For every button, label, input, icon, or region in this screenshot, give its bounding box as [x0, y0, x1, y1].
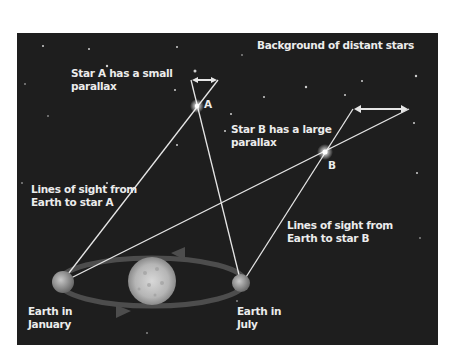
parallax-arrow-a	[192, 77, 217, 83]
star-b	[323, 150, 328, 155]
earth-july	[232, 274, 250, 292]
star-b-note-line1: Star B has a large	[231, 123, 331, 136]
sight-a-line2: Earth to star A	[31, 196, 113, 209]
sight-b-line2: Earth to star B	[287, 232, 369, 245]
sun	[128, 257, 176, 305]
parallax-arrow-b	[354, 105, 408, 113]
star-a	[195, 104, 199, 108]
earth-january-line1: Earth in	[28, 305, 72, 318]
earth-january-line2: January	[28, 318, 71, 331]
star-a-label: A	[204, 98, 212, 111]
star-b-label: B	[328, 159, 336, 172]
star-b-note-line2: parallax	[231, 136, 277, 149]
earth-july-line1: Earth in	[237, 305, 281, 318]
parallax-diagram: Background of distant stars Star A has a…	[17, 33, 438, 345]
background-stars-label: Background of distant stars	[257, 39, 414, 52]
earth-july-line2: July	[237, 318, 258, 331]
star-a-note-line1: Star A has a small	[71, 67, 173, 80]
earth-january	[52, 271, 74, 293]
star-a-note-line2: parallax	[71, 80, 117, 93]
sight-a-line1: Lines of sight from	[31, 183, 137, 196]
sight-b-line1: Lines of sight from	[287, 219, 393, 232]
